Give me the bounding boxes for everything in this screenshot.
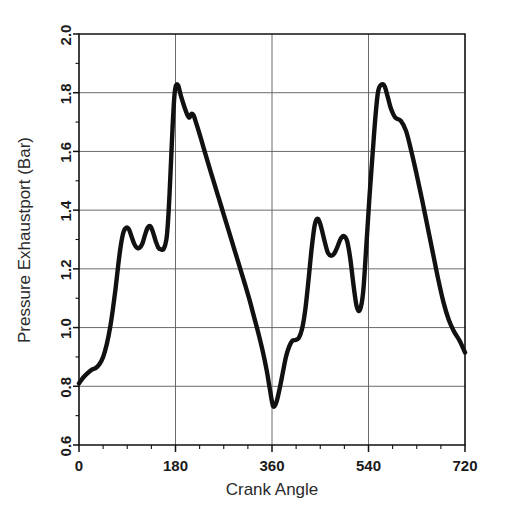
x-axis-major-ticks — [79, 445, 465, 452]
x-tick-label: 0 — [75, 457, 83, 474]
y-tick-label: 2.0 — [57, 25, 74, 46]
x-tick-label: 540 — [356, 457, 381, 474]
y-axis-title: Pressure Exhaustport (Bar) — [15, 137, 34, 343]
y-tick-label: 1.2 — [57, 259, 74, 280]
x-axis-tick-labels: 0180360540720 — [75, 457, 478, 474]
x-tick-label: 720 — [452, 457, 477, 474]
y-axis-tick-labels: 0.60.81.01.21.41.61.82.0 — [57, 25, 74, 457]
x-axis-title: Crank Angle — [226, 480, 319, 499]
y-tick-label: 1.0 — [57, 318, 74, 339]
y-tick-label: 0.6 — [57, 436, 74, 457]
x-tick-label: 180 — [163, 457, 188, 474]
chart-figure: 0.60.81.01.21.41.61.82.0 0180360540720 C… — [0, 0, 509, 530]
x-tick-label: 360 — [259, 457, 284, 474]
y-tick-label: 1.6 — [57, 142, 74, 163]
y-tick-label: 1.8 — [57, 83, 74, 104]
line-chart-svg: 0.60.81.01.21.41.61.82.0 0180360540720 C… — [0, 0, 509, 530]
y-tick-label: 0.8 — [57, 377, 74, 398]
y-tick-label: 1.4 — [57, 200, 74, 222]
